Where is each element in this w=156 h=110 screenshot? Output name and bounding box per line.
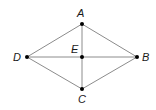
point-A [80,22,84,26]
point-B [135,55,139,59]
segment-CD [27,57,82,89]
label-D: D [13,51,21,63]
point-D [25,55,29,59]
segment-BC [82,57,137,89]
segment-AB [82,24,137,57]
point-E [80,55,84,59]
label-E: E [71,43,79,55]
rhombus-diagram: A B C D E [0,0,156,110]
label-C: C [78,93,86,105]
label-B: B [142,51,149,63]
label-A: A [76,7,84,19]
point-C [80,87,84,91]
